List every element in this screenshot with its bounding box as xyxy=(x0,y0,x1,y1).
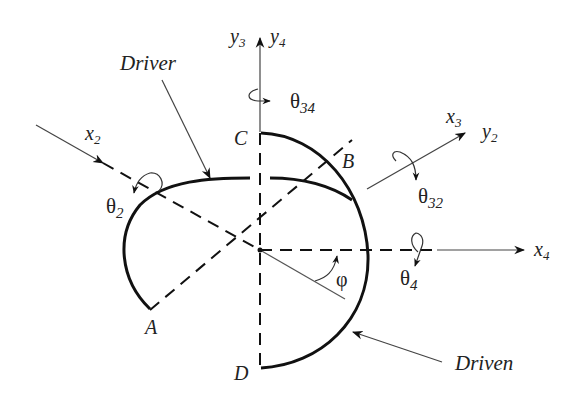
label-phi: φ xyxy=(336,268,348,291)
label-point-D: D xyxy=(233,362,249,384)
label-x2: x2 xyxy=(84,122,101,147)
driver-yoke-arc xyxy=(124,178,352,309)
theta32-rotation-icon xyxy=(393,152,416,180)
x2-axis xyxy=(36,125,260,250)
label-theta2: θ2 xyxy=(106,194,124,221)
label-theta32: θ32 xyxy=(418,184,444,211)
driver-arm-AB xyxy=(150,140,352,310)
label-x3: x3 xyxy=(445,105,462,130)
label-y2: y2 xyxy=(480,120,498,145)
phi-reference-line xyxy=(260,250,345,299)
universal-joint-diagram: y3 y4 x2 x3 y2 x4 θ34 θ2 θ32 θ4 φ A B C … xyxy=(0,0,583,401)
label-y4: y4 xyxy=(268,25,286,50)
label-driven: Driven xyxy=(454,351,513,375)
driver-pointer xyxy=(162,80,210,178)
label-point-B: B xyxy=(342,150,354,172)
y2-x3-axis xyxy=(367,133,465,189)
theta4-rotation-icon xyxy=(412,233,423,266)
center-joint xyxy=(258,248,263,253)
label-theta4: θ4 xyxy=(400,266,418,293)
label-point-C: C xyxy=(234,127,248,149)
label-y3: y3 xyxy=(228,25,246,50)
theta2-rotation-icon xyxy=(134,173,162,193)
label-x4: x4 xyxy=(533,238,550,263)
label-driver: Driver xyxy=(119,51,177,75)
label-point-A: A xyxy=(143,316,158,338)
label-theta34: θ34 xyxy=(290,89,316,116)
driven-pointer xyxy=(353,332,442,362)
phi-angle-arc-icon xyxy=(315,256,337,281)
